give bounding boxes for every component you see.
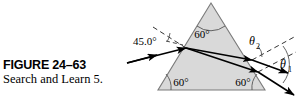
theta1-symbol: θ (280, 57, 286, 71)
figure-number-label: FIGURE 24–63 (3, 58, 123, 72)
exit-ray-lower (258, 72, 294, 95)
bottom-left-angle-label: 60° (173, 76, 188, 88)
theta2-subscript: 2 (256, 42, 260, 51)
bottom-right-angle-label: 60° (235, 76, 250, 88)
incident-ray-midpoint-arrow (127, 55, 157, 63)
figure-caption-block: FIGURE 24–63 Search and Learn 5. (3, 58, 123, 87)
theta2-label-group: θ 2 (249, 34, 260, 51)
apex-angle-label: 60° (194, 28, 209, 40)
left-entry-dashed-hint (166, 41, 183, 45)
theta2-symbol: θ (249, 34, 255, 48)
theta1-subscript: 1 (288, 65, 292, 74)
incidence-angle-label: 45.0° (133, 35, 157, 47)
figure-caption-text: Search and Learn 5. (3, 72, 123, 87)
figure-container: 60° 60° 60° 45.0° θ 2 θ (0, 0, 298, 98)
